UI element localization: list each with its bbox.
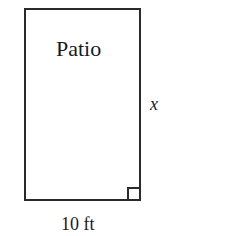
side-length-label: x: [150, 94, 158, 115]
patio-label: Patio: [56, 36, 101, 62]
width-label: 10 ft: [61, 214, 95, 235]
right-angle-marker: [127, 187, 139, 199]
